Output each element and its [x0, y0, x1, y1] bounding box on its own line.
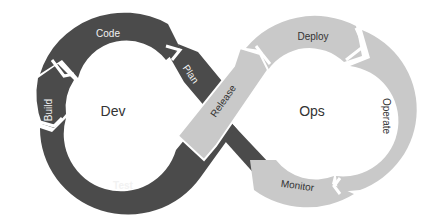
stage-code-label: Code — [96, 28, 120, 39]
stage-deploy-label: Deploy — [297, 31, 328, 42]
devops-infinity-diagram: Code Build Test Plan Deploy Operate Moni… — [0, 0, 425, 216]
ops-center-label: Ops — [299, 103, 325, 119]
stage-operate-label: Operate — [381, 98, 392, 135]
dev-center-label: Dev — [101, 103, 126, 119]
stage-test-label: Test — [113, 180, 133, 191]
stage-build-label: Build — [43, 99, 54, 121]
